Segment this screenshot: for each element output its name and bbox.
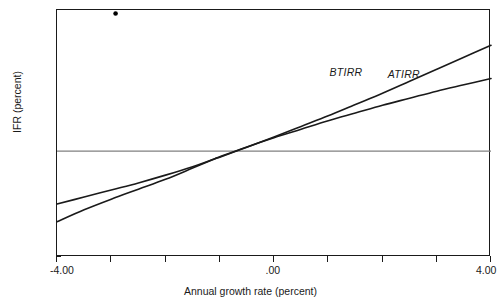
data-point-marker: [113, 11, 118, 16]
series-label-btirr: BTIRR: [330, 66, 363, 78]
plot-canvas: [57, 10, 491, 257]
x-axis-title: Annual growth rate (percent): [0, 285, 501, 297]
x-tick-label: .00: [266, 265, 281, 276]
data-point-markers: [113, 11, 118, 16]
series-line-atirr: [57, 78, 491, 221]
x-tick-label: -4.00: [50, 265, 74, 276]
chart-figure: IFR (percent) 20151050-5-10-15 -4.00.004…: [0, 0, 501, 303]
series-label-atirr: ATIRR: [388, 68, 420, 80]
plot-area: [56, 9, 490, 256]
y-axis-title: IFR (percent): [11, 47, 23, 157]
x-tick-label: 4.00: [476, 265, 496, 276]
series-line-btirr: [57, 45, 491, 204]
